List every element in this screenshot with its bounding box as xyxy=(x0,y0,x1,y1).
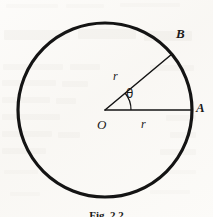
angle-label-theta: θ xyxy=(126,88,133,100)
center-label-o: O xyxy=(97,118,106,131)
radius-label-horizontal: r xyxy=(141,118,146,130)
point-label-a: A xyxy=(196,101,205,114)
figure-container: A B O θ r r Fig. 2.2 xyxy=(0,0,213,217)
figure-caption: Fig. 2.2 xyxy=(0,209,213,217)
radius-label-diagonal: r xyxy=(113,70,118,82)
point-label-b: B xyxy=(176,27,185,40)
